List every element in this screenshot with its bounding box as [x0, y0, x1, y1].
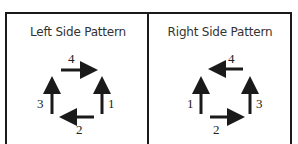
- right-side-pattern-panel: Right Side Pattern 4 1 3 2: [149, 14, 291, 144]
- step-4-label: 4: [68, 51, 75, 66]
- step-4-label: 4: [228, 51, 235, 66]
- step-2-label: 2: [76, 122, 83, 137]
- right-pattern-arrows: 4 1 3 2: [149, 14, 291, 144]
- left-pattern-arrows: 4 3 1 2: [7, 14, 149, 144]
- step-1-label: 1: [187, 96, 194, 111]
- step-1-label: 1: [108, 96, 115, 111]
- left-side-pattern-panel: Left Side Pattern 4 3 1 2: [7, 14, 149, 144]
- step-2-label: 2: [213, 122, 220, 137]
- step-3-label: 3: [256, 96, 263, 111]
- step-3-label: 3: [37, 96, 44, 111]
